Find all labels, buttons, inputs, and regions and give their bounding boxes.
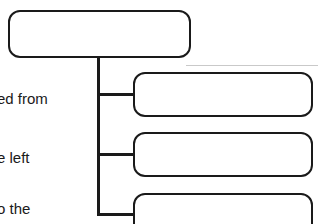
connector-branch-3 bbox=[99, 213, 134, 216]
node-child-1[interactable] bbox=[133, 72, 313, 117]
connector-branch-2 bbox=[99, 153, 134, 156]
node-child-2[interactable] bbox=[133, 132, 313, 177]
node-child-3[interactable] bbox=[133, 193, 313, 224]
caption-line-2: e left bbox=[0, 150, 30, 165]
scan-artifact-line bbox=[186, 65, 318, 66]
connector-branch-1 bbox=[99, 93, 134, 96]
caption-line-1: ed from bbox=[0, 91, 48, 106]
diagram-canvas: ed from e left o the bbox=[0, 0, 318, 224]
connector-trunk-vertical bbox=[97, 57, 100, 216]
caption-line-3: o the bbox=[0, 201, 30, 216]
node-root[interactable] bbox=[8, 10, 191, 58]
